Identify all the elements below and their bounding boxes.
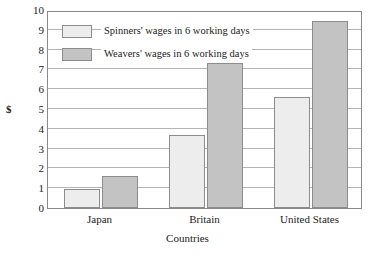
legend-swatch — [62, 25, 92, 38]
y-axis-tick-label: 2 — [22, 163, 44, 174]
bar — [312, 21, 348, 208]
x-axis-tick-label: United States — [255, 213, 365, 225]
y-axis-tick-label: 7 — [22, 64, 44, 75]
chart-legend: Spinners' wages in 6 working daysWeavers… — [62, 22, 252, 68]
y-axis-title: $ — [6, 104, 12, 115]
y-axis-tick-label: 10 — [22, 5, 44, 16]
y-axis-tick-label: 8 — [22, 45, 44, 56]
x-axis-tick-label: Britain — [150, 213, 260, 225]
legend-label: Weavers' wages in 6 working days — [101, 47, 252, 61]
bar — [169, 135, 205, 208]
y-axis-tick-label: 0 — [22, 203, 44, 214]
legend-item: Weavers' wages in 6 working days — [62, 45, 252, 63]
x-axis-title: Countries — [0, 232, 375, 244]
bar-chart: $ 012345678910 JapanBritainUnited States… — [0, 0, 375, 262]
y-axis-tick-label: 5 — [22, 104, 44, 115]
bar — [274, 97, 310, 208]
y-axis-tick-label: 3 — [22, 144, 44, 155]
y-axis-tick-label: 1 — [22, 183, 44, 194]
legend-label: Spinners' wages in 6 working days — [101, 24, 253, 38]
y-axis-tick-label: 4 — [22, 124, 44, 135]
legend-swatch — [62, 48, 92, 61]
x-axis-tick-label: Japan — [45, 213, 155, 225]
bar — [102, 176, 138, 208]
y-axis-tick-label: 6 — [22, 84, 44, 95]
y-axis-tick-label: 9 — [22, 25, 44, 36]
bar — [207, 63, 243, 208]
bar — [64, 189, 100, 208]
legend-item: Spinners' wages in 6 working days — [62, 22, 252, 40]
